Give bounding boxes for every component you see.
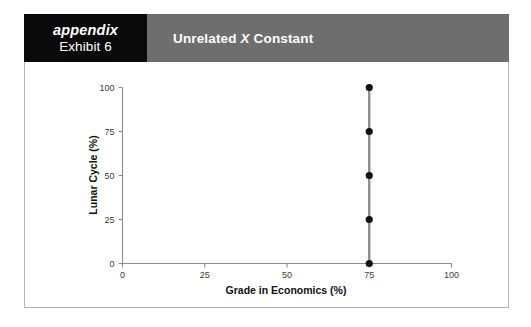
exhibit-title-suffix: Constant xyxy=(254,31,314,46)
exhibit-number-label: Exhibit 6 xyxy=(59,39,112,54)
exhibit-screenshot: appendix Exhibit 6 Unrelated X Constant … xyxy=(0,0,531,327)
exhibit-title-variable: X xyxy=(241,31,250,46)
chart-card xyxy=(24,62,509,308)
exhibit-tag-block: appendix Exhibit 6 xyxy=(24,14,147,62)
appendix-label: appendix xyxy=(53,22,118,38)
exhibit-header: appendix Exhibit 6 Unrelated X Constant xyxy=(24,14,509,62)
exhibit-title-bar: Unrelated X Constant xyxy=(147,14,509,62)
exhibit-title-prefix: Unrelated xyxy=(173,31,237,46)
